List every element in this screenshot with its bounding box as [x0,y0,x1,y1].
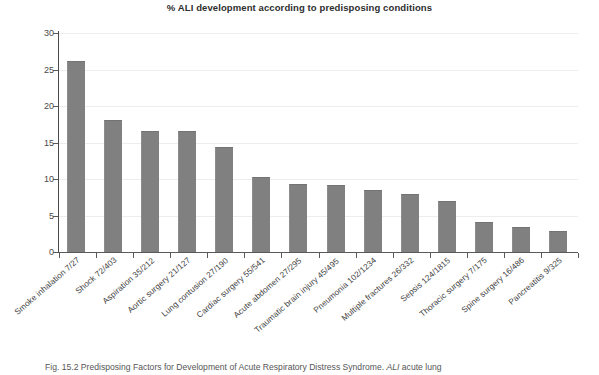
x-tick-label: Cardiac surgery 55/541 [195,256,267,320]
x-tick-label: Thoracic surgery 7/175 [418,256,489,319]
x-tick-label: Spine surgery 16/486 [460,256,526,315]
y-tick-label: 15 [32,139,54,148]
x-axis-category-labels: Smoke inhalation 7/27Shock 72/403Aspirat… [0,252,599,352]
figure-container: % ALI development according to predispos… [0,0,599,375]
bar [364,190,382,252]
caption-abbreviation: ALI [387,362,400,372]
bar [104,120,122,252]
y-tick-label: 10 [32,175,54,184]
y-tick-label: 30 [32,29,54,38]
x-tick-mark [59,253,60,258]
y-tick-mark [53,179,58,180]
x-tick-label: Lung contusion 27/190 [160,256,230,319]
gridline [59,179,578,180]
x-tick-mark [133,253,134,258]
x-tick-mark [393,253,394,258]
y-tick-label: 5 [32,212,54,221]
y-tick-label: 20 [32,102,54,111]
bar [289,184,307,252]
bar [327,185,345,252]
bar [67,61,85,252]
y-tick-mark [53,70,58,71]
caption-prefix: Fig. 15.2 Predisposing Factors for Devel… [45,362,387,372]
y-tick-mark [53,33,58,34]
bar [512,227,530,252]
x-tick-label: Pneumonia 102/1234 [312,256,378,315]
y-tick-mark [53,143,58,144]
x-tick-mark [170,253,171,258]
x-tick-mark [244,253,245,258]
x-tick-label: Smoke inhalation 7/27 [13,256,82,317]
y-tick-mark [53,216,58,217]
x-tick-mark [319,253,320,258]
y-axis-tick-labels: 051015202530 [28,33,54,252]
x-tick-mark [467,253,468,258]
x-tick-label: Aortic surgery 21/127 [126,256,192,315]
bar [252,177,270,252]
gridline [59,106,578,107]
x-tick-mark [430,253,431,258]
plot-area [59,33,578,252]
gridline [59,216,578,217]
y-tick-mark [53,106,58,107]
figure-caption: Fig. 15.2 Predisposing Factors for Devel… [45,362,590,373]
x-tick-label: Multiple fractures 26/332 [340,256,415,323]
gridline [59,70,578,71]
x-tick-mark [504,253,505,258]
x-tick-mark [541,253,542,258]
bar [215,147,233,252]
gridline [59,143,578,144]
bar [438,201,456,252]
x-tick-label: Acute abdomen 27/295 [232,256,303,320]
x-tick-mark [207,253,208,258]
x-tick-mark [578,253,579,258]
gridline [59,33,578,34]
x-tick-mark [96,253,97,258]
bar [141,131,159,252]
bar [549,231,567,252]
bar [475,222,493,252]
x-tick-mark [281,253,282,258]
bar [401,194,419,252]
caption-suffix: acute lung [399,362,441,372]
y-tick-label: 25 [32,66,54,75]
x-tick-mark [356,253,357,258]
chart-title: % ALI development according to predispos… [0,2,599,13]
y-tick-mark [53,252,58,253]
bar [178,131,196,252]
